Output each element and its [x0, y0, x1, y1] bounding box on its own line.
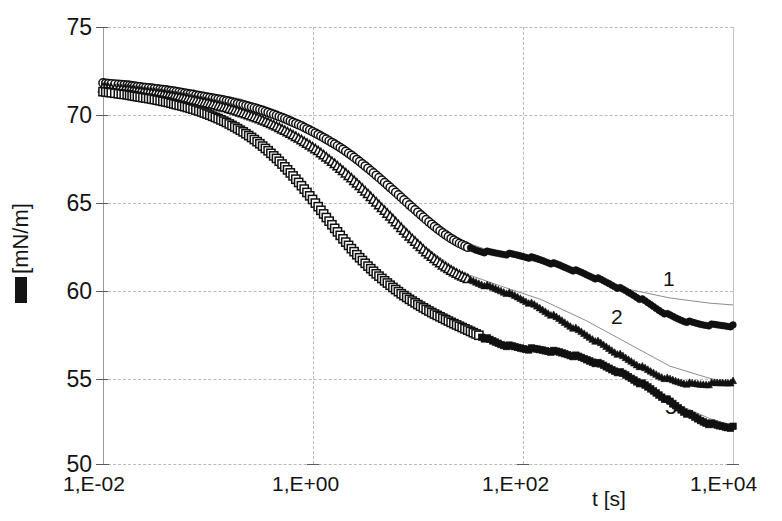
series-label-1: 1: [663, 267, 675, 291]
gridline-x-1e04: [733, 27, 734, 464]
plot-area: 1 2 3: [103, 27, 733, 464]
series-label-3: 3: [665, 395, 677, 419]
series-label-2: 2: [611, 305, 623, 329]
fit-curve-2: [103, 86, 733, 383]
y-axis-title: [mN/m]: [4, 176, 44, 326]
y-tick-label-55: 55: [32, 366, 92, 393]
fit-curve-3: [103, 90, 733, 426]
x-tick-mark-1e04: [727, 464, 739, 465]
x-tick-label-1e-02: 1,E-02: [63, 472, 125, 496]
gridline-50: [103, 464, 733, 465]
series-3: [99, 88, 736, 432]
y-tick-label-70: 70: [32, 102, 92, 129]
data-layer: [103, 27, 733, 464]
x-tick-label-1e02: 1,E+02: [482, 472, 549, 496]
x-tick-mark-1e02: [517, 464, 529, 465]
series-2: [99, 83, 737, 388]
x-axis-title: t [s]: [592, 487, 626, 511]
x-tick-mark-1e-02: [97, 464, 109, 465]
y-tick-label-75: 75: [32, 14, 92, 41]
x-tick-label-1e00: 1,E+00: [272, 472, 339, 496]
x-tick-label-1e04: 1,E+04: [690, 472, 757, 496]
chart-figure: 75 70 65 60 55 50 [mN/m] 1,E-02 1,E+00 1…: [0, 0, 782, 521]
x-tick-mark-1e00: [307, 464, 319, 465]
series-1: [99, 79, 736, 330]
sigma-glyph-box: [15, 277, 27, 303]
y-axis-title-text: [mN/m]: [8, 203, 33, 274]
